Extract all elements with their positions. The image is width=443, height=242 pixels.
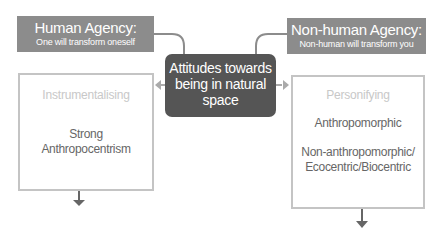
category-label-personifying: Personifying [293,88,423,102]
central-concept-box: Attitudes towards being in natural space [165,54,276,117]
personifying-box: Personifying Anthropomorphic Non-anthrop… [291,75,425,209]
nonhuman-agency-title: Non-human Agency: [287,21,426,39]
attitude-non-anthropomorphic: Non-anthropomorphic/ Ecocentric/Biocentr… [293,145,423,175]
connector-human-to-center [154,34,184,54]
attitude-line: Non-anthropomorphic/ [293,145,423,160]
arrow-left-icon [155,80,161,90]
human-agency-box: Human Agency: One will transform oneself [17,16,154,52]
arrow-down-left-icon [73,200,85,206]
center-line: space [165,92,276,108]
category-label-instrumentalising: Instrumentalising [20,88,152,102]
instrumentalising-box: Instrumentalising Strong Anthropocentris… [18,73,154,191]
attitude-anthropomorphic: Anthropomorphic [293,116,423,131]
center-line: Attitudes towards [165,60,276,76]
nonhuman-agency-subtitle: Non-human will transform you [287,39,426,50]
attitude-line: Ecocentric/Biocentric [293,160,423,175]
human-agency-title: Human Agency: [17,19,154,37]
arrow-right-icon [283,80,289,90]
attitude-line: Anthropocentrism [20,142,152,157]
attitude-line: Strong [20,127,152,142]
arrow-down-right-icon [356,221,368,228]
attitude-strong-anthropocentrism: Strong Anthropocentrism [20,127,152,157]
center-line: being in natural [165,76,276,92]
human-agency-subtitle: One will transform oneself [17,37,154,48]
connector-nonhuman-to-center [256,34,287,54]
attitude-line: Anthropomorphic [293,116,423,131]
nonhuman-agency-box: Non-human Agency: Non-human will transfo… [287,18,426,54]
